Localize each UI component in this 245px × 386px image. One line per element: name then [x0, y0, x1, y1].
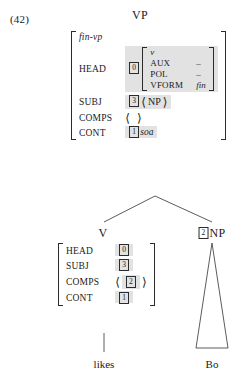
v-head-value-shaded: 0	[115, 244, 133, 256]
v-comps-list: ⟨ 2 ⟩	[115, 275, 146, 290]
v-feature-row-subj: SUBJ 3	[66, 258, 147, 273]
head-inner-type: v	[150, 47, 206, 58]
subj-list-item-np: NP	[148, 96, 161, 107]
feature-attr-pol: POL	[150, 69, 196, 80]
v-feature-row-comps: COMPS ⟨ 2 ⟩	[66, 273, 147, 291]
feature-attr-comps: COMPS	[79, 110, 125, 125]
inner-bracket-right	[209, 47, 214, 91]
vp-feature-rows: HEAD 0 v AUX	[79, 44, 218, 140]
comps-empty-list: ⟨ ⟩	[125, 112, 141, 124]
tag-np-2: 2	[199, 227, 209, 239]
v-feature-attr-cont: CONT	[66, 291, 115, 306]
head-value-shaded: 0 v AUX –	[125, 46, 218, 92]
v-feature-val-subj: 3	[115, 258, 146, 273]
avm-bracket-left	[71, 31, 76, 140]
inner-bracket-left	[142, 47, 147, 91]
tree-node-v: V	[99, 226, 108, 241]
feature-row-cont: CONT 1soa	[79, 125, 218, 140]
feature-attr-aux: AUX	[150, 58, 196, 69]
np-triangle	[196, 243, 228, 348]
feature-val-head: 0 v AUX –	[125, 44, 218, 93]
feature-attr-vform: VFORM	[150, 80, 196, 91]
v-feature-val-comps: ⟨ 2 ⟩	[115, 273, 146, 291]
feature-val-subj: 3 ⟨ NP ⟩	[125, 93, 218, 110]
vp-feature-structure: fin-vp HEAD 0 v	[71, 31, 226, 140]
v-tag-cont-1: 1	[119, 292, 129, 304]
v-feature-structure: HEAD 0 SUBJ 3 COMPS	[58, 243, 155, 306]
v-feature-row-head: HEAD 0	[66, 243, 147, 258]
feature-val-cont: 1soa	[125, 125, 218, 140]
v-tag-subj-3: 3	[119, 259, 129, 271]
cont-value-shaded: 1soa	[125, 126, 157, 138]
v-feature-rows: HEAD 0 SUBJ 3 COMPS	[66, 243, 147, 306]
v-cont-value-shaded: 1	[115, 291, 133, 303]
v-avm-bracket-left	[58, 243, 63, 306]
example-number: (42)	[10, 13, 29, 25]
np-label-text: NP	[210, 226, 226, 241]
tree-node-vp: VP	[132, 8, 148, 23]
v-subj-value-shaded: 3	[115, 259, 133, 271]
v-avm-bracket-right	[150, 243, 155, 306]
v-angle-close-comps: ⟩	[142, 276, 147, 288]
angle-close-comps: ⟩	[137, 112, 142, 124]
v-feature-attr-head: HEAD	[66, 243, 115, 258]
tag-cont-1: 1	[129, 126, 139, 138]
tree-node-np: 2NP	[199, 226, 226, 241]
v-feature-attr-subj: SUBJ	[66, 258, 115, 273]
feature-row-subj: SUBJ 3 ⟨ NP ⟩	[79, 93, 218, 110]
feature-row-aux: AUX –	[150, 58, 206, 69]
feature-val-aux: –	[196, 58, 206, 69]
feature-row-vform: VFORM fin	[150, 80, 206, 91]
head-inner-matrix: v AUX – POL –	[142, 47, 214, 91]
v-angle-open-comps: ⟨	[115, 276, 120, 288]
feature-val-vform: fin	[196, 80, 206, 91]
angle-close-subj: ⟩	[163, 96, 168, 108]
head-inner-rows: AUX – POL – VFORM	[150, 58, 206, 91]
terminal-likes: likes	[94, 358, 115, 370]
figure-container: (42) VP fin-vp HEAD 0 v	[0, 0, 245, 386]
v-feature-val-head: 0	[115, 243, 146, 258]
v-feature-attr-comps: COMPS	[66, 273, 115, 291]
branch-right	[155, 196, 212, 222]
terminal-bo: Bo	[206, 358, 219, 370]
avm-bracket-right	[221, 31, 226, 140]
angle-open-subj: ⟨	[141, 96, 146, 108]
feature-val-pol: –	[196, 69, 206, 80]
feature-val-comps: ⟨ ⟩	[125, 110, 218, 125]
v-comps-value-shaded: 2	[122, 275, 140, 290]
v-tag-head-0: 0	[119, 244, 129, 256]
subj-value-shaded: 3 ⟨ NP ⟩	[125, 95, 171, 109]
cont-type-soa: soa	[140, 127, 153, 137]
angle-open-comps: ⟨	[125, 112, 130, 124]
feature-row-comps: COMPS ⟨ ⟩	[79, 110, 218, 125]
feature-row-pol: POL –	[150, 69, 206, 80]
v-feature-row-cont: CONT 1	[66, 291, 147, 306]
v-feature-val-cont: 1	[115, 291, 146, 306]
tag-subj-3: 3	[129, 95, 139, 107]
feature-attr-head: HEAD	[79, 44, 125, 93]
v-tag-comps-2: 2	[126, 276, 136, 288]
feature-attr-subj: SUBJ	[79, 93, 125, 110]
tag-head-0: 0	[129, 62, 139, 74]
vp-type-label: fin-vp	[79, 31, 218, 44]
feature-row-head: HEAD 0 v AUX	[79, 44, 218, 93]
feature-attr-cont: CONT	[79, 125, 125, 140]
branch-left	[104, 196, 155, 222]
